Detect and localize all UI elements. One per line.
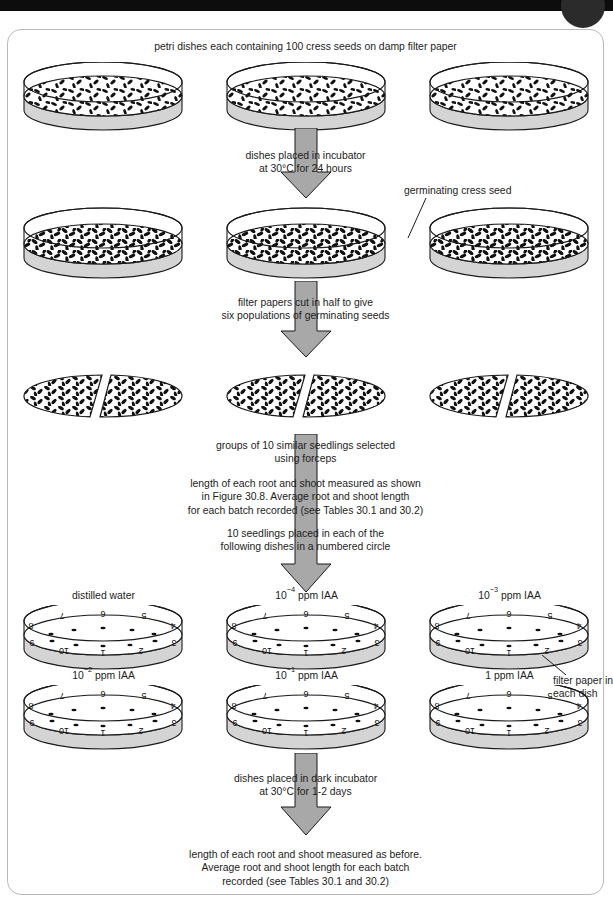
step-incubate-1-label: dishes placed in incubator at 30°C for 2… — [8, 149, 603, 176]
svg-text:3: 3 — [171, 718, 176, 728]
petri-dish-germinated — [219, 206, 394, 280]
numbered-dish: 6 5 4 3 2 1 10 9 8 7 — [16, 605, 191, 675]
svg-text:7: 7 — [465, 611, 470, 621]
step-select-seedlings-label: groups of 10 similar seedlings selected … — [8, 439, 603, 466]
dish-iaa-1e-1-label: 10−1 ppm IAA — [219, 670, 394, 681]
svg-text:8: 8 — [434, 701, 439, 711]
svg-text:10: 10 — [465, 646, 475, 656]
svg-text:10: 10 — [59, 646, 69, 656]
svg-text:9: 9 — [29, 718, 34, 728]
svg-text:10: 10 — [262, 726, 272, 736]
svg-text:2: 2 — [138, 726, 143, 736]
svg-text:9: 9 — [435, 718, 440, 728]
page-corner-tab — [561, 0, 605, 28]
svg-text:7: 7 — [59, 691, 64, 701]
petri-dish-germinated — [16, 206, 191, 280]
numbered-dish: 6 5 4 3 2 1 10 9 8 7 — [422, 605, 597, 675]
svg-text:9: 9 — [232, 718, 237, 728]
step-cut-papers-label: filter papers cut in half to give six po… — [8, 296, 603, 323]
svg-text:8: 8 — [28, 621, 33, 631]
step-measure-first-label: length of each root and shoot measured a… — [8, 477, 603, 517]
svg-text:6: 6 — [303, 609, 308, 619]
petri-dish-seeded — [219, 62, 394, 136]
svg-text:6: 6 — [506, 609, 511, 619]
treatment-dish-row-bottom: 6 5 4 3 2 1 10 9 8 7 — [16, 685, 597, 755]
svg-text:6: 6 — [506, 689, 511, 699]
svg-text:9: 9 — [435, 638, 440, 648]
svg-text:3: 3 — [577, 638, 582, 648]
dish-iaa-1e-4-label: 10−4 ppm IAA — [219, 590, 394, 601]
svg-text:1: 1 — [303, 728, 308, 738]
svg-text:1: 1 — [303, 648, 308, 658]
dish-row-halved-papers — [16, 366, 597, 426]
svg-text:8: 8 — [231, 701, 236, 711]
svg-text:8: 8 — [231, 621, 236, 631]
dish-row-germinated — [16, 206, 597, 280]
petri-dish-seeded — [16, 62, 191, 136]
numbered-dish: 6 5 4 3 2 1 10 9 8 7 — [219, 685, 394, 755]
svg-text:10: 10 — [59, 726, 69, 736]
petri-dish-seeded — [422, 62, 597, 136]
svg-text:2: 2 — [341, 726, 346, 736]
numbered-dish: 6 5 4 3 2 1 10 9 8 7 — [219, 605, 394, 675]
svg-text:7: 7 — [262, 691, 267, 701]
svg-text:6: 6 — [303, 689, 308, 699]
svg-text:5: 5 — [547, 691, 552, 701]
halved-filter-paper-pair — [422, 366, 597, 426]
svg-text:1: 1 — [100, 648, 105, 658]
svg-text:4: 4 — [576, 621, 581, 631]
step-place-seedlings-label: 10 seedlings placed in each of the follo… — [8, 527, 603, 554]
svg-text:4: 4 — [373, 701, 378, 711]
svg-text:4: 4 — [373, 621, 378, 631]
halved-filter-paper-pair — [219, 366, 394, 426]
page-top-bar — [0, 0, 613, 11]
svg-text:1: 1 — [100, 728, 105, 738]
svg-text:10: 10 — [465, 726, 475, 736]
svg-text:3: 3 — [374, 638, 379, 648]
svg-text:5: 5 — [141, 611, 146, 621]
svg-text:4: 4 — [170, 701, 175, 711]
numbered-dish: 6 5 4 3 2 1 10 9 8 7 — [16, 685, 191, 755]
svg-text:2: 2 — [138, 646, 143, 656]
dish-row-initial — [16, 62, 597, 136]
dish-distilled-water-label: distilled water — [16, 590, 191, 601]
svg-text:1: 1 — [506, 648, 511, 658]
treatment-dish-row-top: 6 5 4 3 2 1 10 9 8 7 — [16, 605, 597, 675]
halved-filter-paper-pair — [16, 366, 191, 426]
svg-text:3: 3 — [577, 718, 582, 728]
svg-text:9: 9 — [232, 638, 237, 648]
svg-text:4: 4 — [170, 621, 175, 631]
svg-text:7: 7 — [262, 611, 267, 621]
svg-text:1: 1 — [506, 728, 511, 738]
petri-dish-germinated — [422, 206, 597, 280]
svg-text:10: 10 — [262, 646, 272, 656]
step-measure-final-label: length of each root and shoot measured a… — [8, 848, 603, 888]
svg-text:6: 6 — [100, 689, 105, 699]
svg-text:7: 7 — [465, 691, 470, 701]
svg-text:2: 2 — [341, 646, 346, 656]
svg-text:5: 5 — [141, 691, 146, 701]
svg-text:9: 9 — [29, 638, 34, 648]
svg-text:3: 3 — [374, 718, 379, 728]
dish-iaa-1-label: 1 ppm IAA — [422, 670, 597, 681]
figure-panel: petri dishes each containing 100 cress s… — [7, 29, 604, 895]
svg-text:5: 5 — [344, 691, 349, 701]
germinating-seed-label: germinating cress seed — [404, 184, 544, 197]
svg-text:4: 4 — [576, 701, 581, 711]
svg-text:5: 5 — [547, 611, 552, 621]
svg-text:3: 3 — [171, 638, 176, 648]
dish-iaa-1e-3-label: 10−3 ppm IAA — [422, 590, 597, 601]
step-incubate-dark-label: dishes placed in dark incubator at 30°C … — [8, 772, 603, 799]
svg-text:8: 8 — [28, 701, 33, 711]
svg-text:6: 6 — [100, 609, 105, 619]
dish-iaa-1e-2-label: 10−2 ppm IAA — [16, 670, 191, 681]
svg-text:7: 7 — [59, 611, 64, 621]
svg-text:8: 8 — [434, 621, 439, 631]
svg-text:5: 5 — [344, 611, 349, 621]
figure-caption-top: petri dishes each containing 100 cress s… — [8, 40, 603, 53]
numbered-dish: 6 5 4 3 2 1 10 9 8 7 — [422, 685, 597, 755]
svg-text:2: 2 — [544, 726, 549, 736]
